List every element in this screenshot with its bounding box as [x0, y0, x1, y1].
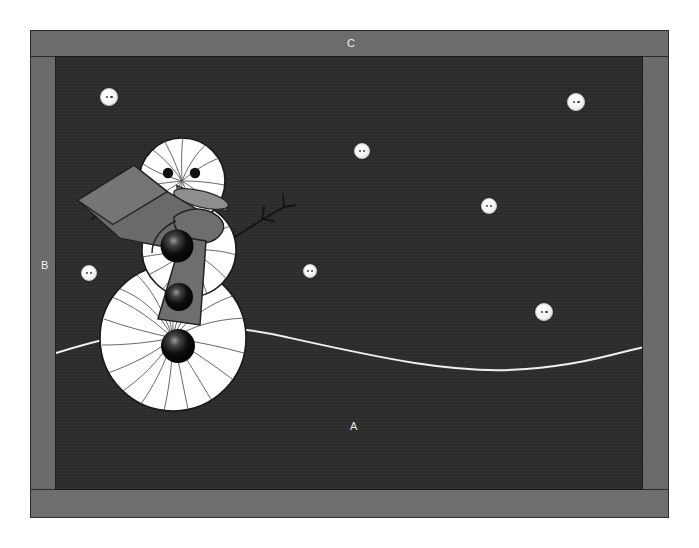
- bottom-frame-border: [30, 489, 669, 518]
- coal-button: [161, 329, 195, 363]
- left-frame-border: [30, 56, 56, 490]
- label-a: A: [350, 421, 357, 432]
- right-eye: [190, 168, 200, 178]
- left-eye: [163, 168, 173, 178]
- label-c: C: [347, 38, 355, 49]
- night-sky-background: [55, 56, 643, 490]
- right-frame-border: [642, 56, 669, 490]
- coal-button: [165, 283, 193, 311]
- coal-button: [161, 230, 194, 263]
- label-b: B: [41, 260, 48, 271]
- illustration-canvas: C B A: [0, 0, 699, 548]
